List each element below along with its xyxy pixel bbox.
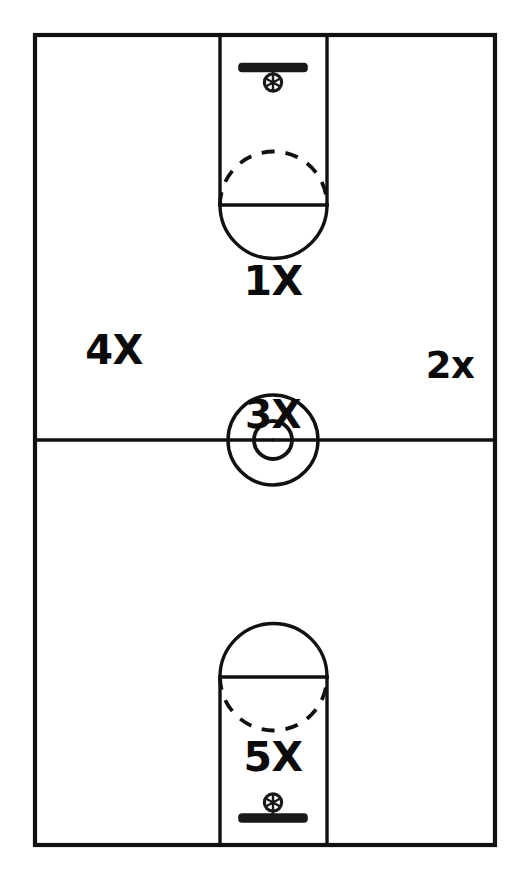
top-backboard-icon xyxy=(239,64,307,72)
top-free-throw-circle-solid-half xyxy=(220,205,327,259)
zone-label-3x: 3X xyxy=(245,395,301,434)
court-diagram: 1X 4X 2x 3X 5X xyxy=(0,0,527,894)
zone-label-2x: 2x xyxy=(426,347,475,384)
bottom-free-throw-circle-dashed-half xyxy=(220,677,327,731)
top-free-throw-circle-dashed-half xyxy=(220,152,327,206)
top-basketball-hoop-icon xyxy=(264,74,281,91)
bottom-free-throw-circle-solid-half xyxy=(220,624,327,678)
center-dot xyxy=(271,438,275,442)
bottom-basketball-hoop-icon xyxy=(264,794,281,811)
bottom-backboard-icon xyxy=(239,814,307,822)
zone-label-1x: 1X xyxy=(243,261,302,302)
zone-label-5x: 5X xyxy=(243,737,302,778)
zone-label-4x: 4X xyxy=(85,330,143,370)
